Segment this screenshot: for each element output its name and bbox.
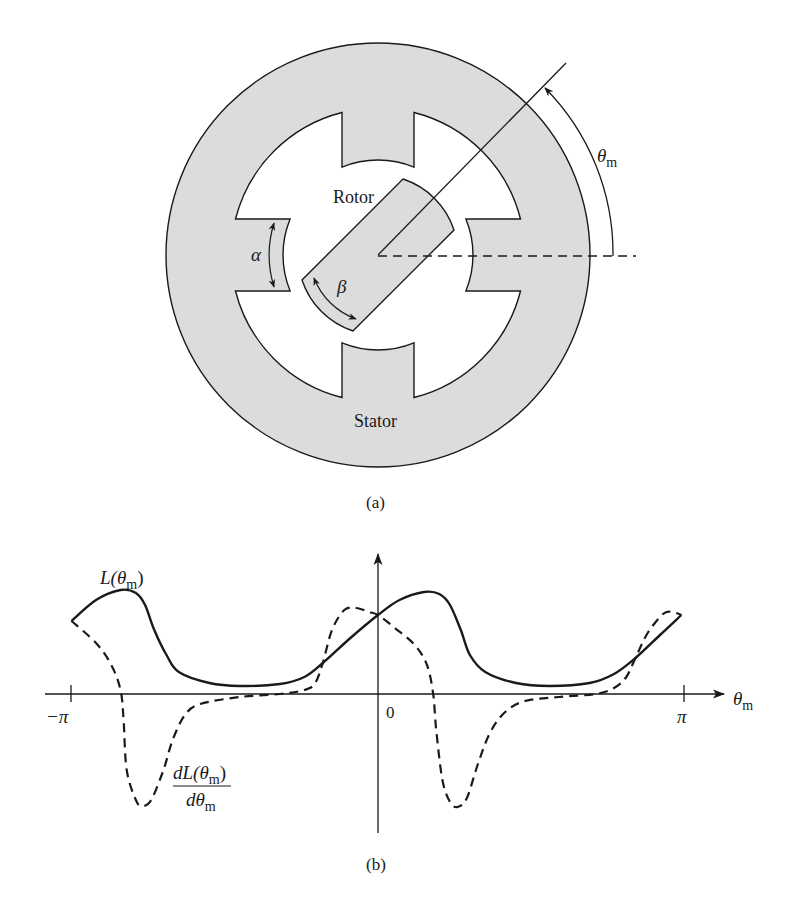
inductance-derivative-curve — [72, 607, 682, 807]
beta-label: β — [336, 276, 347, 297]
inductance-curve — [72, 590, 682, 686]
theta-m-label: θm — [597, 145, 617, 170]
rotor-label: Rotor — [333, 187, 374, 207]
figure-a-machine-diagram: θm α β Rotor Stator (a) — [166, 43, 636, 512]
stator-label: Stator — [354, 411, 397, 431]
caption-a: (a) — [366, 493, 385, 512]
tick-label-neg-pi: −π — [46, 706, 69, 727]
caption-b: (b) — [366, 855, 386, 874]
x-axis-label: θm — [733, 688, 753, 713]
figure-canvas: θm α β Rotor Stator (a) −π 0 π θm L(θm) — [0, 0, 789, 900]
figure-b-inductance-plot: −π 0 π θm L(θm) dL(θm) dθm (b) — [45, 554, 753, 874]
tick-label-zero: 0 — [386, 703, 395, 722]
dL-curve-label: dL(θm) dθm — [173, 762, 231, 814]
tick-label-pi: π — [677, 706, 687, 727]
svg-text:dL(θm): dL(θm) — [173, 762, 226, 787]
svg-text:dθm: dθm — [186, 789, 216, 814]
L-curve-label: L(θm) — [99, 567, 143, 592]
alpha-label: α — [251, 244, 262, 265]
